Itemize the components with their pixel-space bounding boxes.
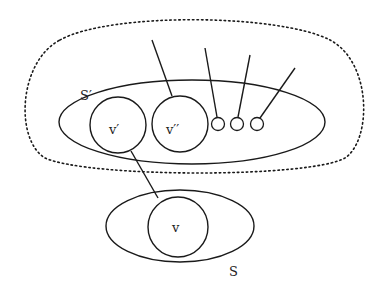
label-v-prime: v′ <box>108 122 119 137</box>
label-v: v <box>171 220 180 235</box>
label-s-prime: S′ <box>80 88 92 103</box>
edge-v-prime-v <box>131 151 158 198</box>
edge-v-double-prime-external <box>152 40 172 96</box>
outer-dotted-region <box>25 20 364 173</box>
label-s: S <box>229 264 238 279</box>
set-s-ellipse <box>106 190 254 262</box>
node-small-3 <box>251 118 264 131</box>
node-small-1 <box>212 118 225 131</box>
node-small-2 <box>231 118 244 131</box>
label-v-double-prime: v′′ <box>165 122 179 137</box>
diagram-svg: S′ v′ v′′ v S <box>0 0 384 290</box>
edge-small2-external <box>238 55 250 117</box>
edge-small1-external <box>205 48 217 117</box>
node-v-double-prime <box>152 96 208 152</box>
diagram-canvas: S′ v′ v′′ v S <box>0 0 384 290</box>
